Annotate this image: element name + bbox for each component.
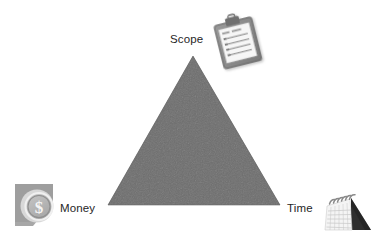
project-triangle-diagram: $ (0, 0, 382, 247)
vertex-label-money: Money (60, 203, 95, 215)
triangle-shape (108, 56, 280, 205)
svg-text:$: $ (35, 198, 44, 217)
vertex-label-scope: Scope (170, 34, 203, 46)
clipboard-icon (211, 10, 262, 70)
desk-calendar-icon (325, 195, 371, 230)
vertex-label-time: Time (287, 203, 313, 215)
money-coin-icon: $ (15, 184, 60, 229)
